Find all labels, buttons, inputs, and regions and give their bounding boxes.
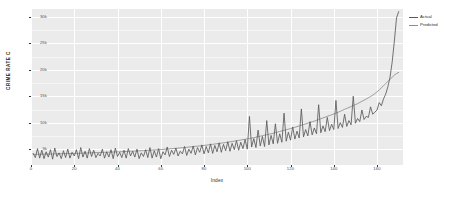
y-tick-mark bbox=[29, 123, 31, 124]
x-tick-mark bbox=[247, 165, 248, 167]
chart-legend: Actual Predicted bbox=[409, 14, 451, 30]
y-tick-label: 20k bbox=[7, 68, 47, 72]
x-tick-mark bbox=[204, 165, 205, 167]
x-tick-label: 20 bbox=[59, 167, 89, 171]
x-tick-label: 140 bbox=[319, 167, 349, 171]
legend-swatch-predicted bbox=[409, 25, 418, 26]
y-axis-title: CRIME RATE C bbox=[6, 36, 11, 106]
series-layer bbox=[31, 9, 403, 165]
x-tick-mark bbox=[334, 165, 335, 167]
x-axis-title: Index bbox=[142, 178, 292, 183]
x-tick-mark bbox=[118, 165, 119, 167]
y-tick-mark bbox=[29, 43, 31, 44]
plot-panel bbox=[31, 9, 403, 165]
x-tick-mark bbox=[291, 165, 292, 167]
x-tick-label: 0 bbox=[16, 167, 46, 171]
series-line-actual bbox=[33, 12, 399, 160]
y-tick-mark bbox=[29, 17, 31, 18]
x-tick-label: 100 bbox=[232, 167, 262, 171]
y-tick-mark bbox=[29, 70, 31, 71]
x-tick-mark bbox=[377, 165, 378, 167]
legend-item-predicted[interactable]: Predicted bbox=[409, 22, 451, 29]
y-tick-label: 25k bbox=[7, 41, 47, 45]
x-tick-mark bbox=[161, 165, 162, 167]
chart-figure: 5k10k15k20k25k30k 020406080100120140160 … bbox=[0, 0, 452, 202]
legend-label-actual: Actual bbox=[420, 15, 432, 19]
y-tick-mark bbox=[29, 149, 31, 150]
x-tick-mark bbox=[74, 165, 75, 167]
series-line-predicted bbox=[33, 72, 399, 154]
legend-label-predicted: Predicted bbox=[420, 23, 438, 27]
legend-swatch-actual bbox=[409, 17, 418, 18]
x-tick-label: 80 bbox=[189, 167, 219, 171]
y-tick-label: 10k bbox=[7, 121, 47, 125]
legend-item-actual[interactable]: Actual bbox=[409, 14, 451, 21]
x-tick-label: 60 bbox=[146, 167, 176, 171]
y-tick-label: 30k bbox=[7, 15, 47, 19]
x-tick-label: 160 bbox=[362, 167, 392, 171]
x-tick-mark bbox=[31, 165, 32, 167]
x-tick-label: 120 bbox=[276, 167, 306, 171]
y-tick-label: 15k bbox=[7, 94, 47, 98]
x-tick-label: 40 bbox=[103, 167, 133, 171]
y-tick-mark bbox=[29, 96, 31, 97]
y-tick-label: 5k bbox=[7, 147, 47, 151]
